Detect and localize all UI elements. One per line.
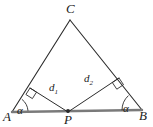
segment-AC (12, 20, 70, 112)
vertex-label-C: C (66, 2, 75, 15)
geometry-diagram: C A B P α α d1 d2 (0, 0, 153, 127)
distance-label-d2: d2 (84, 73, 93, 87)
distance-label-d2-sub: 2 (90, 79, 94, 87)
segment-P-to-BC-d2 (68, 78, 119, 112)
distance-label-d1-sub: 1 (55, 88, 59, 96)
angle-label-alpha-at-B: α (123, 103, 129, 114)
vertex-label-P: P (64, 113, 72, 126)
distance-label-d1: d1 (49, 82, 58, 96)
angle-label-alpha-at-A: α (17, 105, 23, 116)
vertex-label-B: B (139, 109, 147, 122)
vertex-label-A: A (3, 110, 11, 123)
segment-BC (70, 20, 142, 110)
right-angle-mark-d1-icon (26, 88, 37, 99)
